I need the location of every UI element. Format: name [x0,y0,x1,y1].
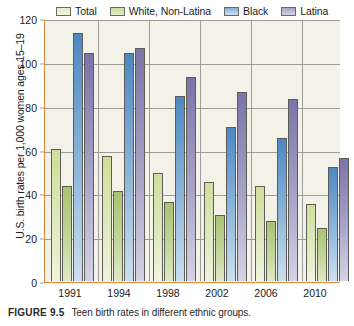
bar[interactable] [204,182,214,281]
chart-legend: Total White, Non-Latina Black Latina [56,2,328,20]
bar-group [47,20,98,281]
bar-group [149,20,200,281]
y-tick-label: 60 [25,146,37,158]
legend-label-total: Total [75,5,97,17]
legend-label-latina: Latina [300,5,328,17]
legend-entry-black: Black [224,5,268,17]
legend-label-black: Black [243,5,268,17]
y-axis-ticks: 020406080100120 [0,20,44,283]
legend-swatch-white-non-latina [110,7,125,16]
y-tick-label: 20 [25,233,37,245]
bar[interactable] [84,53,94,281]
bar-groups [47,20,341,281]
x-tick-label: 1994 [95,287,144,299]
bar[interactable] [226,127,236,280]
legend-label-white-non-latina: White, Non-Latina [129,5,211,17]
x-tick-label: 1991 [46,287,95,299]
y-tick-label: 120 [19,14,37,26]
legend-swatch-total [56,7,71,16]
figure-number: FIGURE 9.5 [8,307,64,318]
y-tick-label: 40 [25,189,37,201]
bar[interactable] [175,96,185,280]
bar[interactable] [164,202,174,281]
legend-swatch-black [224,7,239,16]
bar-group [251,20,302,281]
figure-caption: FIGURE 9.5Teen birth rates in different … [8,307,352,318]
bar-group [302,20,353,281]
legend-entry-latina: Latina [281,5,328,17]
plot-area [44,20,340,283]
bar[interactable] [215,215,225,281]
legend-swatch-latina [281,7,296,16]
y-tick-label: 0 [31,277,37,289]
y-tick-label: 100 [19,58,37,70]
bar-group [98,20,149,281]
x-tick-label: 1998 [144,287,193,299]
plot-outer [44,20,340,283]
bar[interactable] [317,228,327,281]
bar[interactable] [237,92,247,280]
bar[interactable] [277,138,287,280]
bar[interactable] [62,186,72,280]
y-tick-label: 80 [25,102,37,114]
bar[interactable] [255,186,265,280]
bar[interactable] [339,158,349,281]
bar[interactable] [153,173,163,280]
x-axis-labels: 199119941998200220062010 [46,287,340,299]
bar[interactable] [51,149,61,281]
bar[interactable] [328,167,338,281]
bar[interactable] [124,53,134,281]
bar[interactable] [135,48,145,280]
bar-group [200,20,251,281]
x-tick-label: 2006 [242,287,291,299]
x-tick-label: 2002 [193,287,242,299]
bar[interactable] [266,221,276,280]
bar[interactable] [73,33,83,281]
bar[interactable] [288,99,298,281]
x-tick-label: 2010 [291,287,340,299]
bar[interactable] [186,77,196,281]
legend-entry-total: Total [56,5,97,17]
figure-caption-text: Teen birth rates in different ethnic gro… [71,307,250,318]
bar[interactable] [102,156,112,281]
bar[interactable] [113,191,123,281]
legend-entry-white-non-latina: White, Non-Latina [110,5,211,17]
figure-container: Total White, Non-Latina Black Latina U.S… [0,0,354,326]
bar[interactable] [306,204,316,281]
